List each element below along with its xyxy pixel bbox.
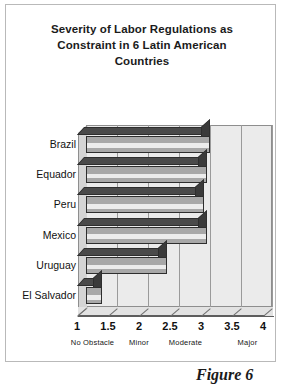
x-tick-label: 2.5 [155, 320, 185, 332]
x-tick-label: 3 [186, 320, 216, 332]
figure-frame: Severity of Labor Regulations as Constra… [5, 4, 276, 362]
bar-highlight [87, 295, 101, 300]
x-scale-label: Major [213, 338, 283, 347]
figure-caption: Figure 6 [196, 366, 253, 384]
chart-title-line-2: Constraint in 6 Latin American [20, 37, 264, 53]
bar-front-face [86, 166, 207, 183]
bar-front-face [86, 136, 210, 153]
category-label-uruguay: Uruguay [36, 259, 76, 271]
gridline [210, 125, 211, 307]
bar-top-face [77, 248, 165, 256]
category-label-equador: Equador [36, 168, 76, 180]
x-tick-label: 4 [248, 320, 278, 332]
bar-top-face [77, 127, 208, 135]
category-label-brazil: Brazil [50, 138, 76, 150]
bar-front-face [86, 196, 204, 213]
chart-title-line-1: Severity of Labor Regulations as [20, 21, 264, 37]
x-tick-label: 2 [124, 320, 154, 332]
x-tick-label: 3.5 [217, 320, 247, 332]
chart-title-line-3: Countries [20, 53, 264, 69]
x-tick-label: 1 [62, 320, 92, 332]
category-label-el-salvador: El Salvador [22, 289, 76, 301]
x-scale-label: Moderate [151, 338, 221, 347]
category-axis-labels: BrazilEquadorPeruMexicoUruguayEl Salvado… [6, 125, 76, 321]
gridline [241, 125, 242, 307]
bar-top-face [77, 187, 202, 195]
gridline [272, 125, 273, 307]
x-tick-label: 1.5 [93, 320, 123, 332]
chart-title: Severity of Labor Regulations as Constra… [20, 21, 264, 69]
x-axis-line [78, 316, 274, 317]
bar-highlight [87, 265, 166, 270]
bar-highlight [87, 174, 206, 179]
bar-front-face [86, 287, 102, 304]
bar-front-face [86, 257, 167, 274]
bar-front-face [86, 227, 207, 244]
bar-highlight [87, 143, 209, 148]
category-label-mexico: Mexico [43, 229, 76, 241]
bar-top-face [77, 157, 205, 165]
category-label-peru: Peru [54, 198, 76, 210]
plot-area [78, 125, 274, 321]
bar-highlight [87, 204, 203, 209]
bar-highlight [87, 234, 206, 239]
bar-top-face [77, 218, 205, 226]
